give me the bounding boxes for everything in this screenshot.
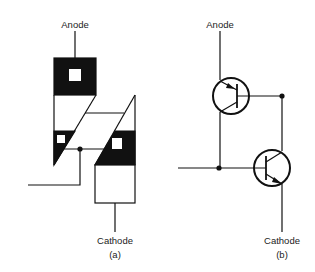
scr-two-transistor-figure: Anode Cathode (a) Anode Cathode (b) [0,0,315,272]
panel-b-anode-label: Anode [206,20,233,30]
panel-a-structure [28,31,135,232]
panel-a-bottom-white-block [95,165,135,203]
pnp-collector [220,102,237,112]
panel-b-caption: (b) [276,250,288,260]
panel-b-cathode-label: Cathode [264,236,300,246]
pnp-transistor-symbol [213,78,282,114]
panel-a-cathode-label: Cathode [97,236,133,246]
panel-b-circuit [178,31,290,232]
figure-canvas [0,0,315,272]
panel-a-anode-label: Anode [61,20,88,30]
panel-a-caption: (a) [109,250,121,260]
panel-a-right-white-window [112,138,122,149]
pnp-emitter-arrow [226,83,235,89]
panel-a-lower-left-white-window [57,135,65,143]
npn-collector [266,152,282,162]
panel-a-top-white-window [69,69,81,81]
